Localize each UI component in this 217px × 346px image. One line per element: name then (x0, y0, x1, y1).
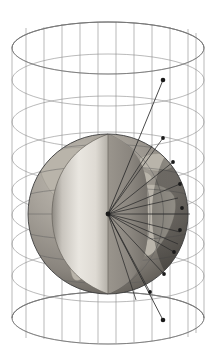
surface-node (178, 228, 182, 232)
surface-node (148, 290, 152, 294)
surface-node (178, 182, 182, 186)
surface-node (171, 160, 175, 164)
cylinder-node-upper (161, 78, 166, 83)
surface-node (161, 136, 165, 140)
cylinder-node-lower (161, 318, 166, 323)
surface-node (162, 272, 166, 276)
figure-root: Mercator cylindrical projection (0, 0, 217, 346)
surface-node (180, 206, 184, 210)
mercator-projection-diagram: Mercator cylindrical projection (0, 0, 217, 346)
globe-centre-node (106, 212, 111, 217)
surface-node (172, 250, 176, 254)
